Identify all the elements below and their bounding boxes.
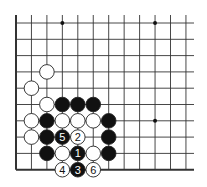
black-stone: 1 [71, 146, 86, 161]
move-number-label: 2 [75, 131, 81, 143]
white-stone [24, 130, 39, 145]
stones: 521436 [24, 65, 116, 177]
black-stone [101, 130, 116, 145]
white-stone-icon [71, 114, 86, 129]
white-stone: 4 [55, 162, 70, 177]
white-stone-icon [40, 97, 55, 112]
white-stone-icon [24, 81, 39, 96]
white-stone [40, 65, 55, 80]
black-stone-icon [71, 97, 86, 112]
black-stone [40, 130, 55, 145]
black-stone-icon [40, 130, 55, 145]
black-stone-icon [55, 97, 70, 112]
black-stone: 3 [71, 162, 86, 177]
white-stone-icon [86, 146, 101, 161]
white-stone-icon [24, 114, 39, 129]
white-stone [86, 114, 101, 129]
black-stone [40, 146, 55, 161]
move-number-label: 3 [75, 164, 81, 176]
black-stone-icon [101, 114, 116, 129]
black-stone-icon [40, 114, 55, 129]
move-number-label: 6 [90, 164, 96, 176]
move-number-label: 4 [59, 164, 65, 176]
star-point-icon [153, 21, 157, 25]
white-stone [40, 97, 55, 112]
move-number-label: 5 [59, 131, 65, 143]
white-stone: 6 [86, 162, 101, 177]
black-stone-icon [86, 97, 101, 112]
board-grid [16, 15, 194, 170]
black-stone [71, 97, 86, 112]
black-stone [40, 114, 55, 129]
white-stone-icon [55, 114, 70, 129]
white-stone-icon [86, 114, 101, 129]
black-stone [86, 97, 101, 112]
white-stone [55, 146, 70, 161]
white-stone-icon [55, 146, 70, 161]
black-stone [101, 114, 116, 129]
white-stone-icon [40, 65, 55, 80]
white-stone [71, 114, 86, 129]
move-number-label: 1 [75, 147, 81, 159]
black-stone-icon [40, 146, 55, 161]
star-point-icon [60, 21, 64, 25]
go-board: 521436 [0, 0, 207, 187]
white-stone [86, 146, 101, 161]
white-stone-icon [24, 130, 39, 145]
black-stone-icon [101, 146, 116, 161]
white-stone: 2 [71, 130, 86, 145]
black-stone [55, 97, 70, 112]
white-stone [55, 114, 70, 129]
white-stone [24, 114, 39, 129]
black-stone-icon [101, 130, 116, 145]
star-point-icon [153, 119, 157, 123]
white-stone [24, 81, 39, 96]
black-stone [101, 146, 116, 161]
black-stone: 5 [55, 130, 70, 145]
